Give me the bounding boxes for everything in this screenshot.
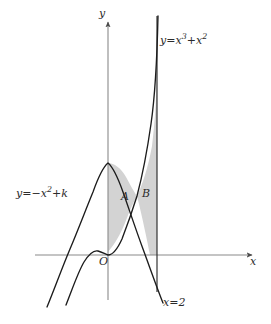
label-curve-cubic: y=x3+x2 xyxy=(160,33,207,46)
label-axis-x: x xyxy=(250,256,256,267)
label-vertical-line-x2: x=2 xyxy=(163,297,185,308)
label-origin: O xyxy=(99,256,108,267)
curve-cubic xyxy=(66,16,158,305)
label-axis-y: y xyxy=(99,8,105,19)
math-figure: y=x3+x2 y=−x2+k x=2 A B O y x xyxy=(0,0,271,324)
label-curve-parabola: y=−x2+k xyxy=(16,186,68,199)
axes-group xyxy=(35,22,252,300)
label-region-b: B xyxy=(142,188,150,199)
shaded-region-b xyxy=(137,20,157,255)
label-region-a: A xyxy=(121,191,129,202)
figure-canvas xyxy=(0,0,271,324)
